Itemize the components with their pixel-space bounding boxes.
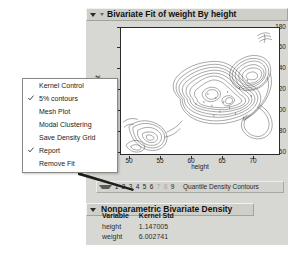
menu-item-mesh-plot[interactable]: Mesh Plot (23, 105, 117, 118)
cell-variable: height (102, 222, 139, 232)
menu-item-label: Modal Clustering (39, 121, 92, 128)
slider-num-6[interactable]: 6 (148, 184, 155, 191)
contour-plot-svg (121, 28, 279, 154)
triangle-down-icon[interactable] (90, 13, 96, 17)
bivariate-density-chart: 180 160 140 120 100 80 60 weight (96, 24, 286, 167)
slider-num-2[interactable]: 2 (120, 184, 127, 191)
cell-kernel-std: 1.147005 (139, 222, 184, 232)
slider-num-9[interactable]: 9 (169, 184, 176, 191)
menu-item-label: Save Density Grid (39, 134, 95, 141)
plot-area[interactable] (120, 27, 280, 155)
slider-handle-icon[interactable] (99, 185, 112, 189)
menu-item-modal-clustering[interactable]: Modal Clustering (23, 118, 117, 131)
screenshot-root: Bivariate Fit of weight By height Nonpar… (0, 0, 298, 253)
outline-bar-bivariate-fit[interactable]: Bivariate Fit of weight By height (86, 8, 288, 21)
menu-item-kernel-control[interactable]: Kernel Control (23, 79, 117, 92)
checkmark-icon (28, 95, 34, 101)
col-header-variable: Variable (102, 212, 139, 222)
menu-item-label: Remove Fit (39, 160, 75, 167)
slider-num-7[interactable]: 7 (155, 184, 162, 191)
x-axis-label: height (120, 164, 280, 171)
outline-title-bivariate-fit: Bivariate Fit of weight By height (107, 10, 236, 19)
kernel-std-table: Variable Kernel Std height 1.147005 weig… (102, 212, 252, 243)
menu-item-label: Report (39, 147, 60, 154)
menu-item-label: Mesh Plot (39, 108, 70, 115)
quantile-density-contours-label: Quantile Density Contours (183, 184, 259, 191)
quantile-contour-slider-row[interactable]: 1 2 3 4 5 6 7 8 9 Quantile Density Conto… (96, 181, 284, 193)
triangle-down-icon[interactable] (90, 208, 96, 212)
slider-number-scale[interactable]: 1 2 3 4 5 6 7 8 9 (113, 184, 176, 191)
slider-num-3[interactable]: 3 (127, 184, 134, 191)
cell-variable: weight (102, 232, 139, 242)
slider-num-8[interactable]: 8 (162, 184, 169, 191)
menu-item-5-percent-contours[interactable]: 5% contours (23, 92, 117, 105)
slider-num-1[interactable]: 1 (113, 184, 120, 191)
cell-kernel-std: 6.002741 (139, 232, 184, 242)
menu-item-remove-fit[interactable]: Remove Fit (23, 157, 117, 170)
menu-item-label: 5% contours (39, 95, 78, 102)
table-row: height 1.147005 (102, 222, 184, 232)
menu-item-label: Kernel Control (39, 82, 84, 89)
col-header-kernel-std: Kernel Std (139, 212, 184, 222)
slider-num-4[interactable]: 4 (134, 184, 141, 191)
menu-item-save-density-grid[interactable]: Save Density Grid (23, 131, 117, 144)
triangle-down-small-icon[interactable] (100, 13, 104, 16)
checkmark-icon (28, 147, 34, 153)
table-row: weight 6.002741 (102, 232, 184, 242)
menu-item-report[interactable]: Report (23, 144, 117, 157)
table-header-row: Variable Kernel Std (102, 212, 184, 222)
context-menu[interactable]: Kernel Control 5% contours Mesh Plot Mod… (22, 78, 118, 173)
slider-num-5[interactable]: 5 (141, 184, 148, 191)
